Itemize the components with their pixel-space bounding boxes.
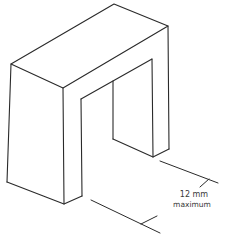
dimension-value-label: 12 mm	[172, 190, 216, 199]
left-leg-outer-edge	[7, 64, 11, 182]
opening-right-edge	[152, 59, 153, 157]
dimension-tick-lower	[141, 216, 157, 224]
opening-top-edge	[81, 59, 152, 99]
dimension-tick-upper	[200, 179, 209, 187]
top-face	[11, 4, 168, 88]
left-leg-bottom	[7, 182, 82, 204]
right-leg-bottom	[113, 139, 169, 157]
extension-line-lower	[91, 200, 160, 233]
dimension-qualifier-label: maximum	[168, 200, 216, 209]
left-leg-inner-edge	[81, 99, 82, 196]
extension-line-upper	[160, 161, 218, 183]
block-outline	[7, 4, 169, 204]
front-corner-edge	[63, 88, 64, 204]
right-leg-outer-edge	[168, 26, 169, 149]
